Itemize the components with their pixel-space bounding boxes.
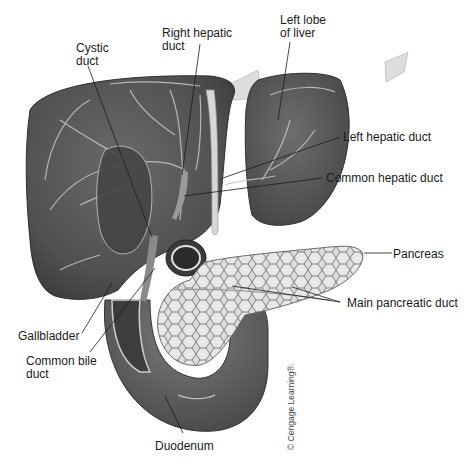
label-common-bile-duct: Common bile duct <box>26 355 97 381</box>
label-duodenum: Duodenum <box>155 440 214 453</box>
label-pancreas: Pancreas <box>393 248 444 261</box>
label-main-pancreatic-duct: Main pancreatic duct <box>347 297 458 310</box>
label-left-hepatic-duct: Left hepatic duct <box>343 131 431 144</box>
copyright-notice: © Cengage Learning®. <box>286 363 296 450</box>
label-right-hepatic-duct: Right hepatic duct <box>162 27 232 53</box>
label-common-hepatic-duct: Common hepatic duct <box>326 172 443 185</box>
label-gallbladder: Gallbladder <box>18 330 79 343</box>
label-cystic-duct: Cystic duct <box>76 42 109 68</box>
anatomy-diagram: Cystic duct Right hepatic duct Left lobe… <box>0 0 469 463</box>
anatomy-illustration <box>0 0 469 463</box>
left-lobe-of-liver-shape <box>245 73 349 225</box>
label-left-lobe-of-liver: Left lobe of liver <box>280 14 326 40</box>
